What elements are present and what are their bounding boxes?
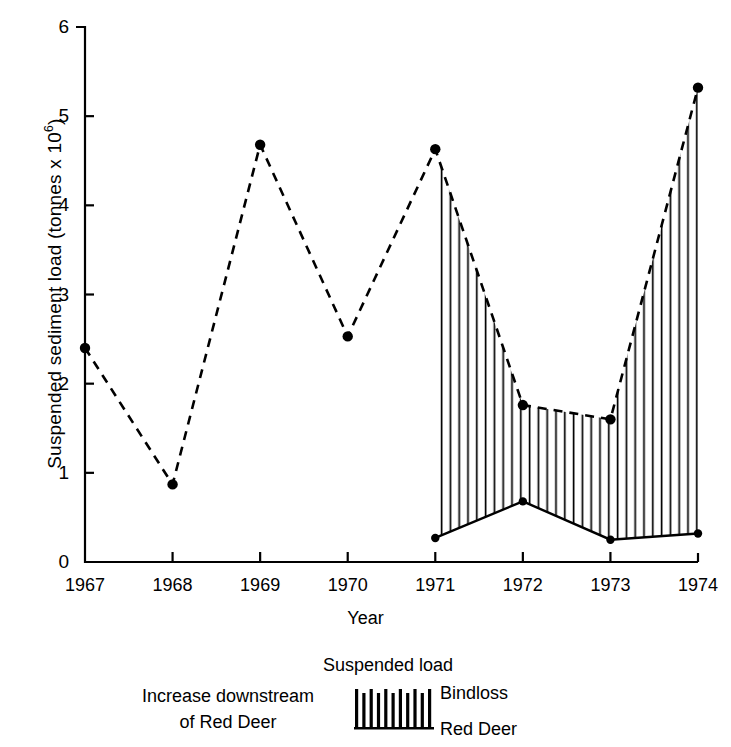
chart-figure: Suspended sediment load (tonnes x 106) 0…	[0, 0, 731, 747]
x-axis-title: Year	[0, 608, 731, 629]
x-tick-label: 1974	[663, 576, 731, 594]
x-tick-label: 1971	[400, 576, 470, 594]
legend-fill-label-line1: Increase downstream	[142, 686, 314, 706]
y-tick-label: 6	[43, 17, 69, 36]
legend-fill-label-line2: of Red Deer	[179, 712, 276, 732]
legend-fill-label: Increase downstream of Red Deer	[108, 683, 348, 735]
y-tick-label: 2	[43, 374, 69, 393]
chart-legend: Suspended load Increase downstream of Re…	[0, 655, 731, 747]
x-tick-label: 1972	[488, 576, 558, 594]
hatched-fill-region	[435, 88, 698, 540]
legend-title: Suspended load	[228, 655, 548, 676]
x-axis-ticks	[173, 552, 611, 562]
vertical-hatch-swatch	[352, 685, 436, 731]
plot-area	[0, 0, 731, 747]
y-axis-ticks	[85, 116, 94, 473]
x-tick-label: 1968	[138, 576, 208, 594]
x-tick-label: 1967	[50, 576, 120, 594]
x-tick-label: 1969	[225, 576, 295, 594]
y-tick-label: 3	[43, 285, 69, 304]
legend-item-red-deer: Red Deer	[440, 719, 517, 740]
y-tick-label: 0	[43, 552, 69, 571]
x-tick-label: 1970	[313, 576, 383, 594]
x-tick-label: 1973	[575, 576, 645, 594]
y-tick-label: 5	[43, 106, 69, 125]
y-tick-label: 1	[43, 463, 69, 482]
y-tick-label: 4	[43, 195, 69, 214]
legend-item-bindloss: Bindloss	[440, 683, 508, 704]
